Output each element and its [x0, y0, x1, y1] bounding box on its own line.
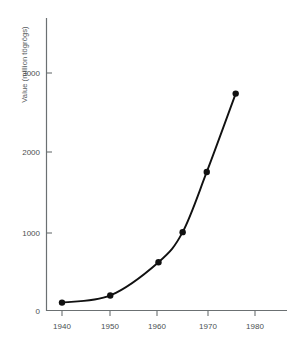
- y-axis-ticks: [47, 73, 53, 233]
- data-point-1970: [204, 169, 210, 175]
- data-point-1965: [179, 229, 185, 235]
- x-axis-ticks: [62, 311, 255, 317]
- plot-canvas: [0, 0, 305, 344]
- data-series-line: [62, 94, 236, 303]
- data-point-1940: [59, 299, 65, 305]
- data-markers: [59, 90, 239, 305]
- data-point-1950: [107, 292, 113, 298]
- data-point-1976: [233, 90, 239, 96]
- data-point-1960: [155, 259, 161, 265]
- line-chart: Value (million tögrögs) 3000 2000 1000 0…: [0, 0, 305, 344]
